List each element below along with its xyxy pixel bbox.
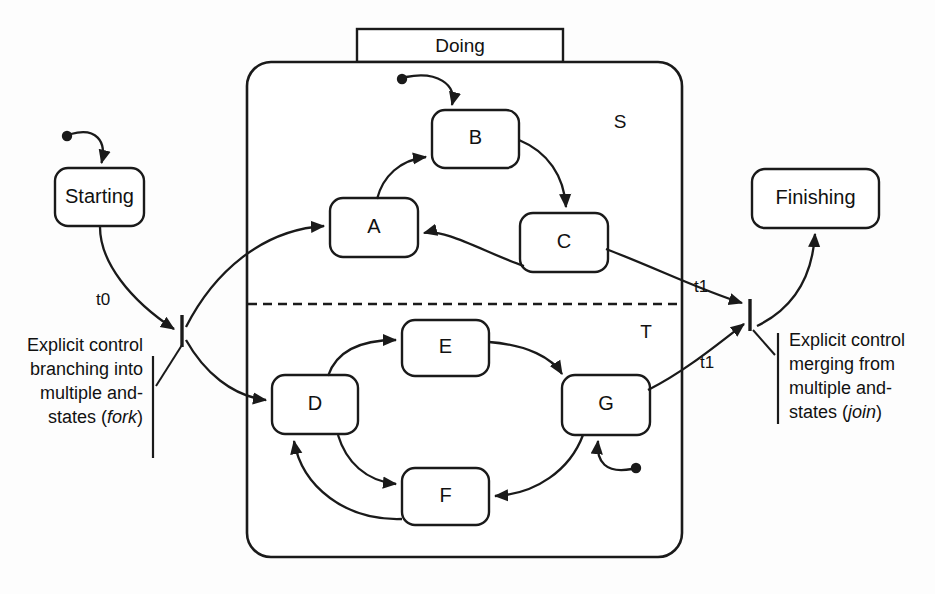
- state-c-label: C: [557, 230, 571, 252]
- state-g[interactable]: G: [562, 375, 650, 435]
- annotation-join-line-4: states (join): [789, 402, 882, 422]
- state-e[interactable]: E: [402, 320, 489, 376]
- annotation-join-line-4-text: states (: [789, 402, 848, 422]
- state-f[interactable]: F: [402, 468, 489, 525]
- region-label-t: T: [640, 321, 652, 342]
- transition-label-t0: t0: [96, 290, 110, 309]
- state-b[interactable]: B: [432, 110, 519, 168]
- state-finishing[interactable]: Finishing: [752, 169, 879, 228]
- annotation-join-line-3: multiple and-: [789, 378, 892, 398]
- transition-join-to-finishing: [757, 234, 815, 326]
- initial-transition-to-starting: [71, 132, 103, 163]
- annotation-join: Explicit control merging from multiple a…: [753, 330, 905, 424]
- initial-dot-icon: [397, 74, 407, 84]
- initial-dot-icon: [631, 463, 641, 473]
- state-a[interactable]: A: [330, 198, 418, 257]
- state-starting[interactable]: Starting: [55, 168, 144, 226]
- state-f-label: F: [439, 484, 451, 506]
- annotation-fork-line-1: Explicit control: [27, 335, 143, 355]
- initial-dot-icon: [62, 131, 72, 141]
- annotation-join-leader: [753, 330, 775, 355]
- state-a-label: A: [367, 215, 381, 237]
- annotation-fork-tail: ): [137, 407, 143, 427]
- state-b-label: B: [469, 126, 482, 148]
- annotation-fork-emphasis: fork: [107, 407, 138, 427]
- annotation-fork-line-4-text: states (: [48, 407, 107, 427]
- state-e-label: E: [439, 335, 452, 357]
- annotation-fork-leader: [156, 345, 182, 386]
- annotation-fork-line-4: states (fork): [48, 407, 143, 427]
- initial-pseudostate-starting: [62, 131, 103, 163]
- annotation-fork: Explicit control branching into multiple…: [27, 335, 182, 458]
- uml-state-diagram: Doing S T Starting Finishing A B: [0, 0, 935, 594]
- annotation-join-emphasis: join: [845, 402, 876, 422]
- region-label-s: S: [614, 111, 627, 132]
- state-c[interactable]: C: [520, 213, 608, 272]
- state-g-label: G: [598, 392, 614, 414]
- annotation-join-line-1: Explicit control: [789, 330, 905, 350]
- transition-starting-to-fork: [100, 227, 174, 329]
- state-starting-label: Starting: [65, 185, 134, 207]
- annotation-fork-line-3: multiple and-: [40, 383, 143, 403]
- transition-label-t1-top: t1: [694, 277, 708, 296]
- state-d[interactable]: D: [272, 375, 358, 434]
- annotation-join-line-2: merging from: [789, 354, 895, 374]
- annotation-join-tail: ): [876, 402, 882, 422]
- state-d-label: D: [308, 392, 322, 414]
- composite-state-name-label: Doing: [435, 35, 485, 56]
- annotation-fork-line-2: branching into: [30, 359, 143, 379]
- transition-label-t1-bottom: t1: [700, 353, 714, 372]
- diagram-canvas: Doing S T Starting Finishing A B: [0, 0, 935, 594]
- state-finishing-label: Finishing: [775, 186, 855, 208]
